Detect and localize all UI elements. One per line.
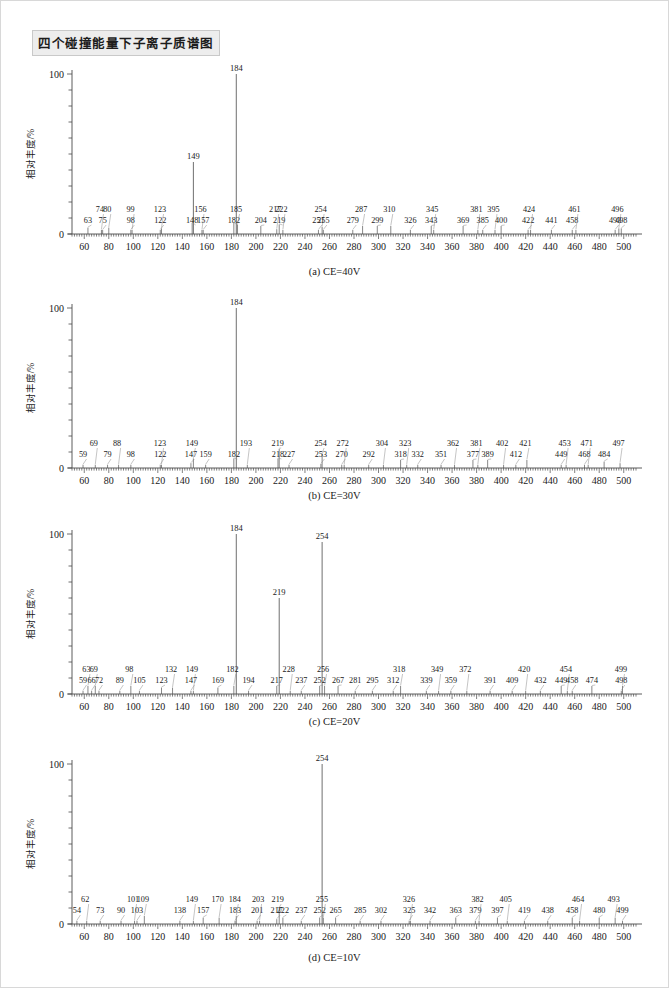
svg-text:72: 72 bbox=[95, 676, 103, 685]
svg-text:63: 63 bbox=[84, 216, 92, 225]
svg-text:120: 120 bbox=[150, 701, 165, 712]
svg-text:180: 180 bbox=[224, 241, 239, 252]
svg-text:222: 222 bbox=[275, 205, 287, 214]
svg-text:80: 80 bbox=[104, 241, 114, 252]
svg-text:280: 280 bbox=[347, 701, 362, 712]
svg-text:140: 140 bbox=[175, 241, 190, 252]
svg-text:75: 75 bbox=[99, 216, 107, 225]
svg-text:500: 500 bbox=[616, 241, 631, 252]
svg-text:69: 69 bbox=[90, 439, 98, 448]
svg-text:219: 219 bbox=[272, 895, 284, 904]
svg-text:320: 320 bbox=[396, 241, 411, 252]
svg-text:100: 100 bbox=[126, 241, 141, 252]
svg-text:280: 280 bbox=[347, 931, 362, 942]
svg-text:62: 62 bbox=[81, 895, 89, 904]
svg-text:100: 100 bbox=[126, 701, 141, 712]
svg-text:256: 256 bbox=[317, 665, 329, 674]
svg-text:400: 400 bbox=[495, 216, 507, 225]
svg-text:460: 460 bbox=[567, 931, 582, 942]
svg-text:79: 79 bbox=[103, 450, 111, 459]
svg-text:237: 237 bbox=[295, 676, 307, 685]
svg-text:340: 340 bbox=[420, 475, 435, 486]
svg-text:391: 391 bbox=[484, 676, 496, 685]
svg-text:441: 441 bbox=[545, 216, 557, 225]
svg-text:310: 310 bbox=[383, 205, 395, 214]
svg-text:420: 420 bbox=[518, 701, 533, 712]
svg-text:420: 420 bbox=[518, 475, 533, 486]
svg-text:300: 300 bbox=[371, 475, 386, 486]
svg-text:421: 421 bbox=[519, 439, 531, 448]
svg-text:453: 453 bbox=[558, 439, 570, 448]
spectrum-chart-a: 1000相对丰度/%608010012014016018020022024026… bbox=[0, 56, 669, 256]
svg-text:60: 60 bbox=[79, 701, 89, 712]
svg-text:318: 318 bbox=[394, 450, 406, 459]
svg-text:500: 500 bbox=[616, 475, 631, 486]
svg-text:323: 323 bbox=[399, 439, 411, 448]
subcaption-c: (c) CE=20V bbox=[0, 716, 669, 727]
svg-text:184: 184 bbox=[229, 895, 241, 904]
svg-text:260: 260 bbox=[322, 931, 337, 942]
svg-text:60: 60 bbox=[79, 241, 89, 252]
svg-text:88: 88 bbox=[113, 439, 121, 448]
svg-text:280: 280 bbox=[347, 241, 362, 252]
svg-text:349: 349 bbox=[431, 665, 443, 674]
svg-text:105: 105 bbox=[133, 676, 145, 685]
svg-text:424: 424 bbox=[523, 205, 535, 214]
svg-text:160: 160 bbox=[199, 931, 214, 942]
svg-text:499: 499 bbox=[616, 906, 628, 915]
svg-text:380: 380 bbox=[469, 475, 484, 486]
svg-text:281: 281 bbox=[349, 676, 361, 685]
svg-text:89: 89 bbox=[116, 676, 124, 685]
svg-text:260: 260 bbox=[322, 475, 337, 486]
svg-text:59: 59 bbox=[79, 450, 87, 459]
svg-text:100: 100 bbox=[126, 475, 141, 486]
svg-text:90: 90 bbox=[117, 906, 125, 915]
subcaption-d: (d) CE=10V bbox=[0, 952, 669, 963]
svg-text:318: 318 bbox=[393, 665, 405, 674]
svg-text:120: 120 bbox=[150, 475, 165, 486]
svg-text:149: 149 bbox=[186, 665, 198, 674]
svg-text:203: 203 bbox=[252, 895, 264, 904]
svg-text:169: 169 bbox=[212, 676, 224, 685]
svg-text:460: 460 bbox=[567, 241, 582, 252]
svg-text:相对丰度/%: 相对丰度/% bbox=[25, 129, 36, 180]
svg-text:340: 340 bbox=[420, 241, 435, 252]
svg-text:369: 369 bbox=[457, 216, 469, 225]
svg-text:449: 449 bbox=[555, 450, 567, 459]
svg-text:59: 59 bbox=[79, 676, 87, 685]
svg-text:304: 304 bbox=[376, 439, 388, 448]
svg-text:219: 219 bbox=[273, 587, 286, 597]
svg-text:272: 272 bbox=[337, 439, 349, 448]
svg-text:98: 98 bbox=[125, 665, 133, 674]
svg-text:123: 123 bbox=[155, 676, 167, 685]
svg-text:400: 400 bbox=[494, 241, 509, 252]
svg-text:132: 132 bbox=[165, 665, 177, 674]
svg-text:405: 405 bbox=[500, 895, 512, 904]
svg-text:380: 380 bbox=[469, 701, 484, 712]
svg-text:184: 184 bbox=[230, 297, 244, 307]
svg-text:270: 270 bbox=[336, 450, 348, 459]
svg-text:149: 149 bbox=[186, 439, 198, 448]
svg-text:382: 382 bbox=[471, 895, 483, 904]
svg-text:460: 460 bbox=[567, 701, 582, 712]
svg-text:360: 360 bbox=[445, 701, 460, 712]
svg-text:183: 183 bbox=[229, 906, 241, 915]
svg-text:312: 312 bbox=[387, 676, 399, 685]
svg-text:193: 193 bbox=[240, 439, 252, 448]
svg-text:377: 377 bbox=[467, 450, 479, 459]
svg-text:360: 360 bbox=[445, 931, 460, 942]
svg-text:342: 342 bbox=[424, 906, 436, 915]
svg-text:499: 499 bbox=[615, 665, 627, 674]
svg-text:343: 343 bbox=[425, 216, 437, 225]
svg-text:69: 69 bbox=[90, 665, 98, 674]
svg-text:400: 400 bbox=[494, 931, 509, 942]
svg-text:480: 480 bbox=[592, 931, 607, 942]
svg-text:相对丰度/%: 相对丰度/% bbox=[25, 589, 36, 640]
svg-text:280: 280 bbox=[347, 475, 362, 486]
svg-text:381: 381 bbox=[470, 439, 482, 448]
svg-text:484: 484 bbox=[598, 450, 610, 459]
svg-text:397: 397 bbox=[491, 906, 503, 915]
svg-text:147: 147 bbox=[185, 676, 197, 685]
svg-text:480: 480 bbox=[592, 701, 607, 712]
svg-text:200: 200 bbox=[248, 241, 263, 252]
